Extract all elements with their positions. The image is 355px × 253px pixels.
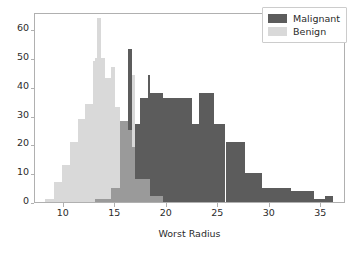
x-axis-label: Worst Radius xyxy=(34,228,345,239)
histogram-bar-malignant xyxy=(192,124,199,202)
histogram-bar-malignant xyxy=(245,173,261,202)
chart-legend: Malignant Benign xyxy=(262,7,347,43)
legend-label-benign: Benign xyxy=(293,27,326,37)
x-tick-mark xyxy=(320,203,321,207)
histogram-bar-benign xyxy=(54,182,62,202)
x-tick-mark xyxy=(114,203,115,207)
histogram-bar-benign xyxy=(62,165,70,202)
x-tick-label: 15 xyxy=(108,208,120,218)
legend-item-benign: Benign xyxy=(268,25,340,38)
histogram-bar-benign xyxy=(70,142,78,202)
y-tick-label: 20 xyxy=(17,138,29,148)
histogram-bar-malignant xyxy=(262,188,292,202)
histogram-bar-malignant xyxy=(140,98,148,179)
histogram-bar-overlap xyxy=(120,121,127,202)
x-tick-label: 30 xyxy=(263,208,275,218)
x-tick-mark xyxy=(63,203,64,207)
histogram-bar-malignant xyxy=(199,93,214,202)
histogram-bar-malignant xyxy=(214,124,225,202)
y-tick-label: 50 xyxy=(17,52,29,62)
histogram-bar-malignant xyxy=(314,199,325,202)
histogram-bar-benign xyxy=(78,119,85,202)
y-axis: 0102030405060 xyxy=(0,13,34,203)
histogram-bar-overlap xyxy=(150,196,162,202)
histogram-bar-malignant xyxy=(291,191,314,203)
x-tick-label: 20 xyxy=(160,208,172,218)
x-tick-label: 25 xyxy=(211,208,223,218)
x-tick-mark xyxy=(269,203,270,207)
histogram-figure: 0102030405060 101520253035 Worst Radius … xyxy=(0,0,355,253)
x-tick-mark xyxy=(217,203,218,207)
histogram-bar-malignant xyxy=(166,98,192,202)
histogram-bar-benign xyxy=(85,104,92,202)
y-tick-label: 0 xyxy=(23,196,29,206)
histogram-bar-malignant xyxy=(226,142,246,202)
histogram-bar-malignant xyxy=(150,93,162,197)
legend-swatch-malignant-icon xyxy=(268,14,287,23)
x-tick-label: 10 xyxy=(57,208,69,218)
y-tick-label: 60 xyxy=(17,23,29,33)
legend-item-malignant: Malignant xyxy=(268,12,340,25)
legend-swatch-benign-icon xyxy=(268,27,287,36)
x-axis: 101520253035 xyxy=(34,203,345,223)
histogram-bar-benign xyxy=(45,199,53,202)
y-tick-label: 10 xyxy=(17,167,29,177)
y-tick-label: 30 xyxy=(17,110,29,120)
histogram-bar-malignant xyxy=(325,196,332,202)
x-tick-label: 35 xyxy=(314,208,326,218)
histogram-bar-overlap xyxy=(140,179,148,202)
y-tick-label: 40 xyxy=(17,81,29,91)
legend-label-malignant: Malignant xyxy=(293,14,340,24)
x-tick-mark xyxy=(166,203,167,207)
